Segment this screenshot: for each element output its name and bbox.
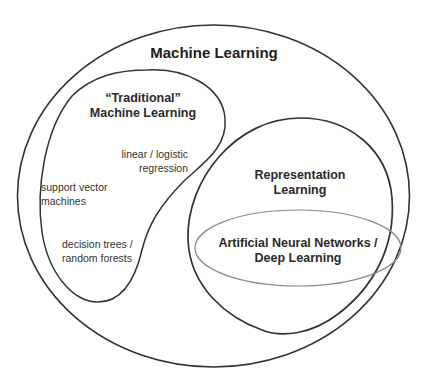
linear-logistic-regression-line2: regression	[110, 162, 188, 176]
representation-learning-blob	[188, 118, 392, 334]
representation-learning-line2: Learning	[240, 183, 360, 198]
deep-learning-label: Artificial Neural Networks / Deep Learni…	[198, 236, 398, 267]
traditional-ml-label-line2: Machine Learning	[78, 106, 208, 121]
support-vector-machines-line1: support vector	[41, 181, 108, 195]
linear-logistic-regression-line1: linear / logistic	[110, 148, 188, 162]
representation-learning-line1: Representation	[240, 168, 360, 183]
support-vector-machines-line2: machines	[41, 195, 108, 209]
representation-learning-label: Representation Learning	[240, 168, 360, 199]
traditional-ml-label: “Traditional” Machine Learning	[78, 91, 208, 122]
traditional-ml-label-line1: “Traditional”	[78, 91, 208, 106]
deep-learning-line2: Deep Learning	[198, 251, 398, 266]
support-vector-machines-label: support vector machines	[41, 181, 108, 208]
decision-trees-random-forests-line2: random forests	[62, 252, 133, 266]
ml-venn-diagram: Machine Learning “Traditional” Machine L…	[0, 0, 428, 382]
decision-trees-random-forests-line1: decision trees /	[62, 238, 133, 252]
machine-learning-label: Machine Learning	[0, 44, 428, 62]
deep-learning-line1: Artificial Neural Networks /	[198, 236, 398, 251]
linear-logistic-regression-label: linear / logistic regression	[110, 148, 188, 175]
decision-trees-random-forests-label: decision trees / random forests	[62, 238, 133, 265]
